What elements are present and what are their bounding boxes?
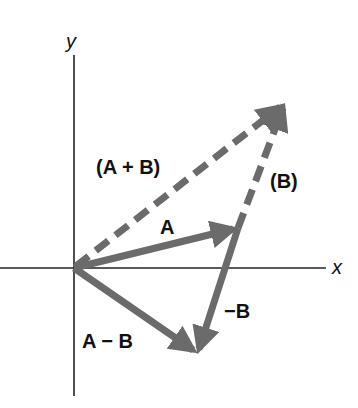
label-b-shifted: (B) [270, 170, 298, 193]
label-a-plus-b: (A + B) [96, 156, 160, 179]
vector-diagram [0, 0, 358, 408]
label-a: A [160, 216, 174, 239]
label-neg-b: −B [224, 300, 250, 323]
x-axis-label: x [332, 256, 342, 279]
y-axis-label: y [66, 30, 76, 53]
label-a-minus-b: A − B [82, 330, 133, 353]
vector-neg-b [199, 228, 238, 349]
